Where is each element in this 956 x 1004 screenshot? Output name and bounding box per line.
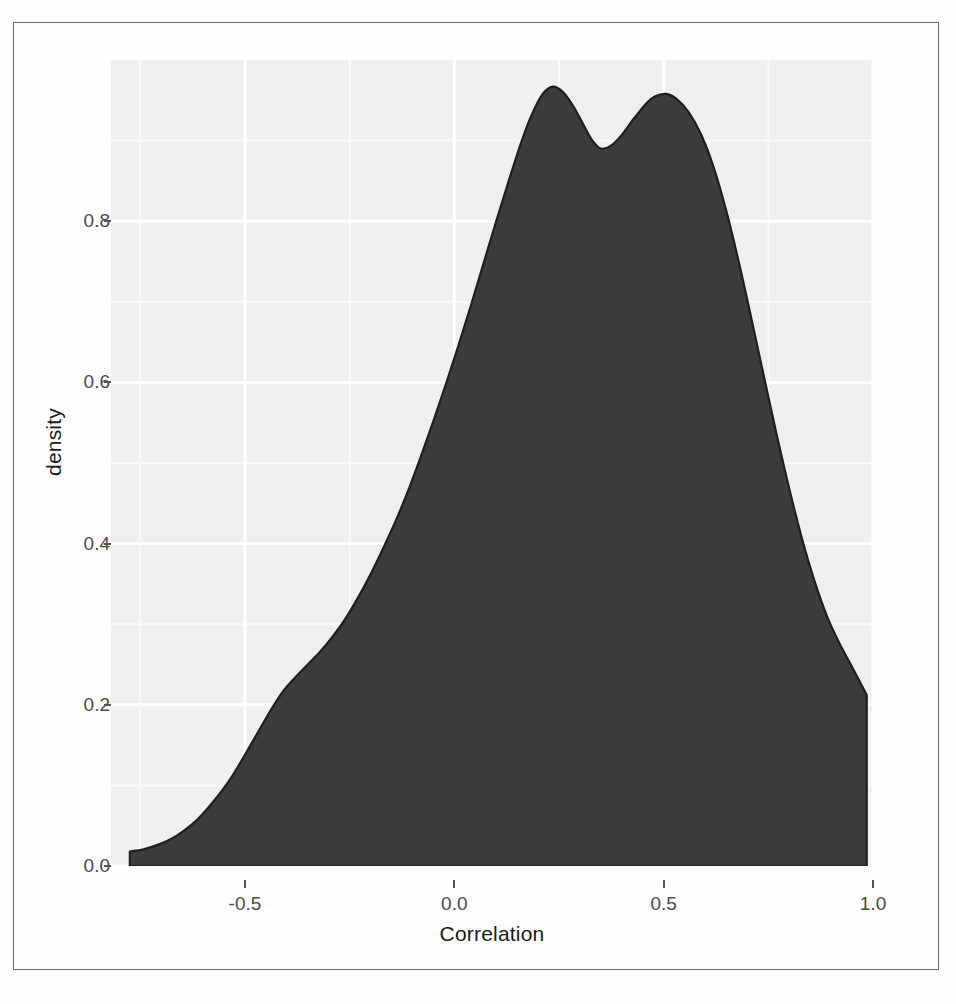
- y-tick-mark: [104, 704, 111, 706]
- y-axis-title: density: [42, 382, 66, 502]
- x-axis-title: Correlation: [111, 922, 873, 946]
- plot-panel: [111, 60, 873, 866]
- y-tick-mark: [104, 220, 111, 222]
- density-plot: 0.00.20.40.60.8 density -0.50.00.51.0 Co…: [0, 0, 956, 1004]
- x-tick-label: -0.5: [200, 893, 290, 915]
- density-area-path: [130, 87, 867, 866]
- y-tick-mark: [104, 543, 111, 545]
- x-tick-mark: [663, 880, 665, 888]
- y-tick-label: 0.8: [50, 210, 110, 232]
- y-tick-mark: [104, 381, 111, 383]
- x-tick-mark: [453, 880, 455, 888]
- x-tick-label: 1.0: [828, 893, 918, 915]
- y-tick-label: 0.0: [50, 855, 110, 877]
- plot-canvas: [111, 60, 873, 866]
- x-tick-mark: [872, 880, 874, 888]
- y-tick-label: 0.2: [50, 694, 110, 716]
- x-tick-label: 0.0: [409, 893, 499, 915]
- x-tick-label: 0.5: [619, 893, 709, 915]
- x-tick-mark: [244, 880, 246, 888]
- y-tick-mark: [104, 865, 111, 867]
- y-tick-label: 0.4: [50, 533, 110, 555]
